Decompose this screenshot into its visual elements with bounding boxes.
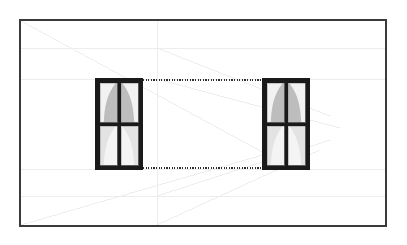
- window-left[interactable]: [95, 78, 143, 170]
- guide-d-5: [21, 154, 266, 225]
- perspective-guides-layer: [21, 21, 385, 225]
- guide-d-6: [21, 21, 266, 154]
- elevation-scene: [0, 0, 407, 245]
- drawing-border-layer: [20, 20, 386, 226]
- drawing-border: [20, 20, 386, 226]
- guide-d-2: [157, 79, 340, 128]
- windows-layer: [95, 78, 310, 170]
- drawing-canvas: [0, 0, 407, 245]
- dimension-lines-layer: [143, 80, 262, 168]
- window-right[interactable]: [262, 78, 310, 170]
